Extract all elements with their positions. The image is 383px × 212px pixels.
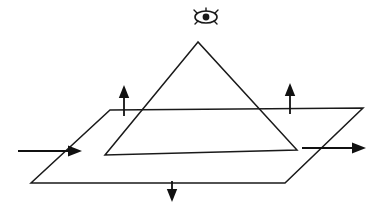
arrow-left-up-head [119,85,129,98]
eye-lash-left [194,10,197,13]
arrow-left-horizontal-right [18,146,82,157]
parallelogram-base-plane [31,108,363,183]
diagram-canvas [0,0,383,212]
triangle-pyramid [105,42,297,155]
diagram-svg [0,0,383,212]
eye-lash-bottom-left [195,21,198,24]
arrow-right-horizontal-right [302,143,366,154]
arrow-center-down-head [167,189,177,202]
arrow-right-up-head [285,83,295,96]
eye-lash-right [215,10,218,13]
eye-icon [194,8,218,24]
arrow-left-horizontal-head [68,146,82,157]
arrow-left-up [119,85,129,116]
arrow-right-horizontal-head [352,143,366,154]
eye-pupil [203,14,210,21]
arrow-center-down [167,181,177,202]
eye-lash-bottom-right [214,21,217,24]
